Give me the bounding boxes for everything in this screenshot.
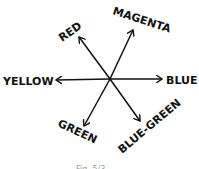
arrow-green [84, 79, 110, 126]
arrow-red [79, 37, 110, 79]
arrow-yellow [56, 79, 110, 80]
label-blue: BLUE [166, 74, 197, 87]
color-axes-diagram: RED MAGENTA YELLOW BLUE GREEN BLUE-GREEN… [0, 0, 199, 169]
label-blue-green: BLUE-GREEN [116, 96, 184, 156]
label-green: GREEN [56, 117, 99, 146]
label-yellow: YELLOW [2, 75, 54, 88]
label-red: RED [56, 19, 84, 44]
label-magenta: MAGENTA [111, 4, 173, 35]
arrow-magenta [110, 30, 133, 79]
arrow-blue-green [110, 79, 140, 121]
figure-caption: Fig. 5/3 [76, 165, 105, 169]
